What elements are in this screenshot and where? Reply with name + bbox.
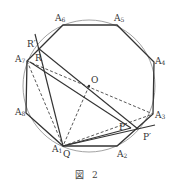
- figure-caption: 図2: [75, 170, 98, 180]
- label-a6: A6: [54, 13, 66, 23]
- label-a5: A5: [113, 13, 125, 23]
- center-point: [88, 85, 90, 87]
- dash-a1-a3: [63, 114, 153, 146]
- label-o: O: [91, 75, 98, 85]
- label-r: R: [35, 53, 42, 63]
- label-r-prime: R′: [27, 39, 36, 49]
- label-a3: A3: [154, 110, 166, 120]
- solid-lines: [30, 34, 155, 146]
- label-q: Q: [63, 149, 70, 159]
- label-a2: A2: [116, 149, 128, 159]
- dash-o-a1: [63, 86, 89, 146]
- label-a4: A4: [154, 56, 166, 66]
- dash-a7-a3: [27, 61, 153, 114]
- label-a7: A7: [14, 54, 26, 64]
- label-a8: A8: [14, 107, 26, 117]
- line-rprime-pprime: [38, 48, 138, 129]
- dashed-lines: [27, 61, 153, 146]
- label-p: P: [119, 122, 125, 132]
- label-p-prime: P′: [143, 132, 151, 142]
- line-r-p: [30, 62, 131, 128]
- geometry-diagram: A6 A5 A4 A3 A2 A1 A8 A7 O R′ R P P′ Q 図2: [0, 0, 176, 186]
